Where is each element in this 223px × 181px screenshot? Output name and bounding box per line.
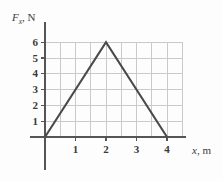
x-tick-label: 3 xyxy=(130,144,144,155)
y-tick-label: 5 xyxy=(24,53,38,64)
y-tick-label: 4 xyxy=(24,68,38,79)
x-tick-label: 2 xyxy=(99,144,113,155)
x-tick-label: 4 xyxy=(160,144,174,155)
y-axis-title: Fx, N xyxy=(12,12,36,26)
x-tick-label: 1 xyxy=(69,144,83,155)
x-axis-unit: , m xyxy=(197,144,211,156)
grid-lines xyxy=(45,42,182,137)
y-tick-label: 2 xyxy=(24,100,38,111)
y-tick-label: 1 xyxy=(24,116,38,127)
y-axis-symbol: F xyxy=(12,11,19,23)
x-axis-title: x, m xyxy=(192,145,211,156)
y-tick-label: 6 xyxy=(24,37,38,48)
y-tick-label: 3 xyxy=(24,84,38,95)
y-axis-unit: , N xyxy=(22,11,35,23)
chart-container: 123456 1234 Fx, N x, m xyxy=(0,0,223,181)
